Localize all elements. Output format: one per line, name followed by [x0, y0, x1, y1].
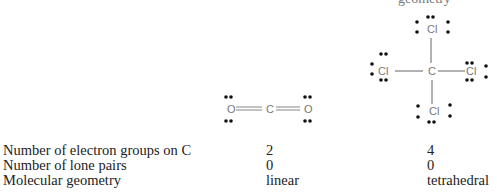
- row-label: Molecular geometry: [3, 173, 121, 188]
- co2-left-oxygen: O: [227, 103, 236, 115]
- table-row: Number of lone pairs 0 0: [0, 158, 497, 173]
- co2-carbon: C: [266, 103, 274, 115]
- row-label: Number of lone pairs: [3, 158, 127, 173]
- ccl4-value: 0: [427, 158, 434, 173]
- co2-lewis-structure: O C O: [224, 95, 313, 123]
- table-row: Molecular geometry linear tetrahedral: [0, 173, 497, 188]
- table-row: Number of electron groups on C 2 4: [0, 143, 497, 158]
- ccl4-value: 4: [427, 143, 434, 158]
- ccl4-lewis-structure: Cl Cl C Cl Cl: [370, 15, 488, 124]
- ccl4-right-chlorine: Cl: [466, 65, 476, 77]
- ccl4-value: tetrahedral: [427, 173, 489, 188]
- properties-table: Number of electron groups on C 2 4 Numbe…: [0, 143, 497, 188]
- co2-value: 2: [266, 143, 273, 158]
- ccl4-top-chlorine: Cl: [427, 23, 437, 35]
- co2-value: 0: [266, 158, 273, 173]
- ccl4-carbon: C: [428, 65, 436, 77]
- row-label: Number of electron groups on C: [3, 143, 191, 158]
- ccl4-bottom-chlorine: Cl: [429, 105, 439, 117]
- co2-right-oxygen: O: [304, 103, 313, 115]
- co2-value: linear: [266, 173, 299, 188]
- lewis-structures: O C O Cl Cl C Cl Cl: [0, 0, 497, 140]
- ccl4-left-chlorine: Cl: [378, 65, 388, 77]
